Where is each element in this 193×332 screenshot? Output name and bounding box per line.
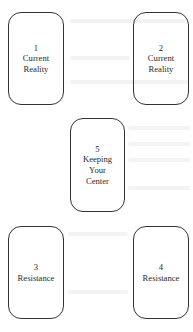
bleed-through-line (128, 158, 190, 162)
bleed-through-line (128, 186, 190, 190)
card-label-line: Center (86, 176, 109, 187)
bleed-through-line (70, 56, 130, 60)
card-2-current-reality: 2 Current Reality (133, 12, 189, 105)
card-3-resistance: 3 Resistance (8, 226, 64, 319)
bleed-through-line (128, 142, 190, 146)
card-label-line: Reality (149, 64, 174, 75)
card-4-resistance: 4 Resistance (133, 226, 189, 319)
card-label-line: Current (148, 53, 174, 64)
bleed-through-line (68, 290, 128, 294)
bleed-through-line (128, 126, 190, 130)
card-1-current-reality: 1 Current Reality (8, 12, 64, 105)
card-number: 5 (95, 144, 99, 155)
card-number: 3 (34, 262, 38, 273)
card-label-line: Resistance (143, 273, 180, 284)
card-number: 2 (159, 43, 163, 54)
bleed-through-line (68, 232, 128, 236)
card-label-line: Current (23, 53, 49, 64)
card-number: 1 (34, 43, 38, 54)
card-number: 4 (159, 262, 163, 273)
card-label-line: Keeping (83, 154, 112, 165)
card-label-line: Resistance (18, 273, 55, 284)
card-label-line: Reality (24, 64, 49, 75)
card-5-keeping-your-center: 5 Keeping Your Center (70, 118, 125, 212)
card-label-line: Your (89, 165, 106, 176)
